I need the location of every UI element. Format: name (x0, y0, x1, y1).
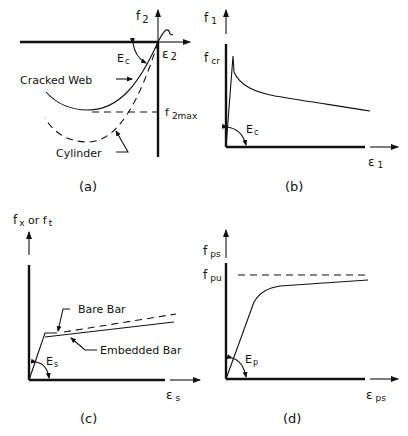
panel-c-bare-bar-hardening (64, 314, 176, 332)
panel-d-fpu-label: fpu (203, 268, 222, 283)
panel-c-reinforcing-steel: fx or ft Bare Bar Embedded Bar Es εs (c) (13, 213, 200, 426)
panel-b-caption: (b) (285, 179, 303, 194)
panel-d-caption: (d) (283, 411, 301, 426)
panel-a-cylinder-leader (116, 131, 128, 152)
panel-b-fcr-label: fcr (204, 51, 220, 66)
panel-a-y-label: f2 (136, 9, 149, 25)
panel-a-cylinder-label: Cylinder (56, 147, 102, 160)
panel-a-concrete-compression: f2 ε2 Ec Cracked Web Cylinder f2max (a) (20, 9, 198, 194)
panel-c-embedded-bar-label: Embedded Bar (100, 344, 182, 357)
panel-a-f2max-label: f2max (165, 106, 198, 121)
cut-off-caption-strip (0, 432, 408, 436)
panel-b-x-label: ε1 (368, 155, 383, 170)
panel-c-bare-bar-label: Bare Bar (78, 303, 126, 316)
panel-b-concrete-tension: f1 fcr Ec ε1 (b) (204, 10, 398, 194)
panel-a-cylinder-curve (45, 42, 158, 142)
panel-d-prestressing-steel: fps fpu Ep εps (d) (203, 230, 398, 426)
panel-b-modulus-arc (227, 127, 246, 145)
panel-a-caption: (a) (79, 179, 97, 194)
panel-a-modulus-label: Ec (117, 52, 129, 66)
stress-strain-figure: f2 ε2 Ec Cracked Web Cylinder f2max (a) … (0, 0, 408, 436)
panel-d-y-label: fps (203, 244, 221, 259)
panel-a-cracked-web-label: Cracked Web (20, 74, 92, 87)
panel-b-y-label: f1 (204, 11, 217, 26)
panel-d-x-label: εps (366, 388, 386, 403)
panel-c-caption: (c) (80, 411, 97, 426)
panel-c-x-label: εs (166, 388, 181, 403)
panel-a-x-label: ε2 (162, 47, 177, 62)
panel-a-tension-peak (158, 30, 173, 42)
panel-c-embedded-bar-leader (71, 338, 97, 350)
panel-b-modulus-label: Ec (246, 123, 258, 137)
panel-a-modulus-arc (133, 43, 146, 63)
panel-c-modulus-label: Es (46, 355, 58, 369)
panel-c-embedded-bar-curve (45, 322, 174, 337)
panel-d-modulus-arc (232, 358, 246, 377)
panel-c-y-label: fx or ft (13, 213, 53, 228)
panel-c-bare-bar-leader (58, 309, 70, 331)
panel-d-modulus-label: Ep (245, 353, 258, 367)
